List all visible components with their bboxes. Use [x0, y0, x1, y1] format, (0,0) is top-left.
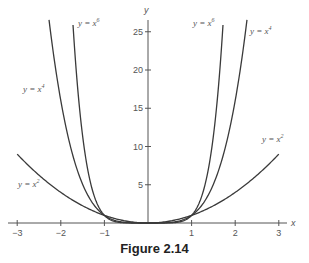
x-tick-label: 3	[276, 228, 281, 238]
x-tick-label: −2	[56, 228, 66, 238]
x-tick-label: 2	[233, 228, 238, 238]
y-axis-label: y	[143, 5, 149, 15]
x-tick-label: −3	[12, 228, 22, 238]
label-x4-left: y = x4	[22, 83, 45, 94]
label-x2-left: y = x2	[17, 178, 40, 189]
label-x6-right: y = x6	[192, 17, 215, 28]
label-x4-right: y = x4	[249, 25, 272, 36]
y-tick-label: 15	[133, 103, 143, 113]
y-tick-label: 20	[133, 65, 143, 75]
y-tick-label: 5	[138, 180, 143, 190]
label-x2-right: y = x2	[261, 133, 284, 144]
label-x6-left: y = x6	[77, 17, 100, 28]
x-tick-label: −1	[99, 228, 109, 238]
x-tick-label: 1	[189, 228, 194, 238]
y-tick-label: 25	[133, 27, 143, 37]
y-tick-label: 10	[133, 142, 143, 152]
figure-caption: Figure 2.14	[0, 241, 309, 256]
chart-canvas: x y −3−2−1123 510152025 y = x6 y = x4 y …	[0, 0, 309, 263]
x-axis-label: x	[290, 218, 296, 228]
